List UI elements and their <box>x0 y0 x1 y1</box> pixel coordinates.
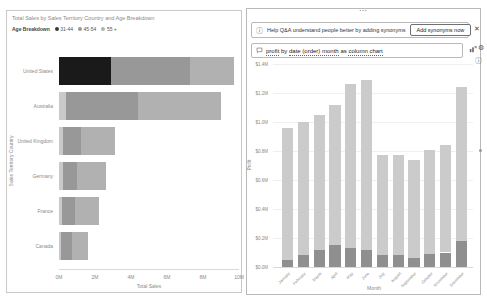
y-tick-label: $0.2M <box>250 236 268 241</box>
bar-segment[interactable] <box>59 92 66 120</box>
x-tick-label: 8M <box>200 274 207 280</box>
bar-segment[interactable] <box>408 258 419 267</box>
bar-segment[interactable] <box>393 155 404 255</box>
legend-label: 55 + <box>107 26 117 32</box>
info-icon: ⓘ <box>256 27 263 34</box>
category-label: Germany <box>9 173 53 179</box>
bar-segment[interactable] <box>72 232 88 260</box>
report-canvas: Total Sales by Sales Territory Country a… <box>0 0 487 300</box>
category-label: Australia <box>9 103 53 109</box>
bar-segment[interactable] <box>282 128 293 260</box>
bar-segment[interactable] <box>329 105 340 246</box>
qa-bubble-icon <box>256 47 263 54</box>
bar-segment[interactable] <box>190 57 233 85</box>
bar-segment[interactable] <box>329 245 340 267</box>
add-synonyms-button[interactable]: Add synonyms now <box>410 24 472 36</box>
y-tick-label: $1.2M <box>250 91 268 96</box>
x-axis-title: Month <box>367 285 381 291</box>
question-word: by <box>279 48 289 54</box>
category-label: Canada <box>9 243 53 249</box>
x-tick-label: 2M <box>92 274 99 280</box>
bar-segment[interactable] <box>361 250 372 267</box>
legend-item[interactable]: 45-54 <box>78 26 96 32</box>
x-tick-label: February <box>292 271 307 286</box>
left-chart-title: Total Sales by Sales Territory Country a… <box>12 15 154 21</box>
bar-segment[interactable] <box>111 57 190 85</box>
legend-dot-icon <box>78 27 82 31</box>
bar-segment[interactable] <box>456 241 467 267</box>
close-icon[interactable]: ✕ <box>474 25 480 32</box>
convert-to-standard-visual-icon[interactable] <box>469 45 477 53</box>
gear-icon[interactable]: ⚙ <box>478 44 484 51</box>
category-label: France <box>9 208 53 214</box>
bar-segment[interactable] <box>81 127 115 155</box>
bar-segment[interactable] <box>298 122 309 255</box>
bar-segment[interactable] <box>440 145 451 252</box>
bar-segment[interactable] <box>440 253 451 268</box>
legend-dot-icon <box>55 27 59 31</box>
x-tick-label: October <box>420 271 434 285</box>
x-axis-title: Total Sales <box>137 283 161 289</box>
x-tick-label: 6M <box>164 274 171 280</box>
category-label: United States <box>9 68 53 74</box>
bar-segment[interactable] <box>345 248 356 267</box>
x-tick-label: December <box>448 271 465 288</box>
bar-segment[interactable] <box>59 57 111 85</box>
bar-segment[interactable] <box>424 254 435 267</box>
more-options-handle[interactable]: ⋯ <box>359 6 368 15</box>
y-tick-label: $0.6M <box>250 178 268 183</box>
bar-segment[interactable] <box>377 255 388 267</box>
bar-segment[interactable] <box>75 197 98 225</box>
bar-segment[interactable] <box>138 92 221 120</box>
question-text: profit by date (order) month as column c… <box>266 48 383 54</box>
bar-segment[interactable] <box>408 160 419 259</box>
sales-by-country-visual[interactable]: Total Sales by Sales Territory Country a… <box>6 10 242 293</box>
x-tick-label: March <box>311 271 322 282</box>
bar-segment[interactable] <box>282 260 293 267</box>
x-tick-label: May <box>346 271 355 280</box>
bar-segment[interactable] <box>298 255 309 267</box>
synonyms-banner: ⓘ Help Q&A understand people better by a… <box>251 22 469 38</box>
bar-segment[interactable] <box>63 162 77 190</box>
y-tick-label: $1.4M <box>250 62 268 67</box>
bar-segment[interactable] <box>61 232 72 260</box>
x-tick-label: January <box>278 271 292 285</box>
question-word: as <box>339 48 349 54</box>
x-axis-line <box>273 267 473 268</box>
x-tick-label: August <box>389 271 401 283</box>
legend-item[interactable]: 31-44 <box>55 26 73 32</box>
bar-segment[interactable] <box>66 92 138 120</box>
bar-segment[interactable] <box>63 127 81 155</box>
x-tick-label: 4M <box>128 274 135 280</box>
bar-segment[interactable] <box>77 162 106 190</box>
x-tick-label: September <box>400 271 417 288</box>
bar-segment[interactable] <box>393 255 404 267</box>
bar-segment[interactable] <box>377 155 388 255</box>
y-tick-label: $0.0M <box>250 265 268 270</box>
resize-handle[interactable] <box>479 149 482 152</box>
y-axis-title: Profit <box>247 160 252 171</box>
bar-segment[interactable] <box>314 115 325 250</box>
x-tick-label: April <box>329 271 338 280</box>
y-tick-label: $0.8M <box>250 149 268 154</box>
bar-segment[interactable] <box>345 84 356 248</box>
legend-item[interactable]: 55 + <box>101 26 116 32</box>
bar-segment[interactable] <box>456 87 467 241</box>
bar-segment[interactable] <box>62 197 76 225</box>
visual-info-icon[interactable]: ⓘ <box>475 57 482 64</box>
recognized-term: column chart <box>348 48 382 56</box>
y-tick-label: $1.0M <box>250 120 268 125</box>
bar-segment[interactable] <box>314 250 325 267</box>
legend-label: 31-44 <box>60 26 73 32</box>
recognized-term: profit <box>266 48 279 56</box>
bar-segment[interactable] <box>424 150 435 254</box>
x-tick-label: July <box>377 271 386 280</box>
age-breakdown-legend: Age Breakdown 31-4445-5455 + <box>12 26 117 32</box>
banner-text: Help Q&A understand people better by add… <box>267 27 406 33</box>
qa-visual[interactable]: ⋯ ⓘ Help Q&A understand people better by… <box>246 8 481 295</box>
qa-question-input[interactable]: profit by date (order) month as column c… <box>251 43 463 58</box>
bar-segment[interactable] <box>361 80 372 250</box>
recognized-term: date (order) month <box>289 48 339 56</box>
gridline <box>273 64 473 65</box>
legend-dot-icon <box>101 27 105 31</box>
